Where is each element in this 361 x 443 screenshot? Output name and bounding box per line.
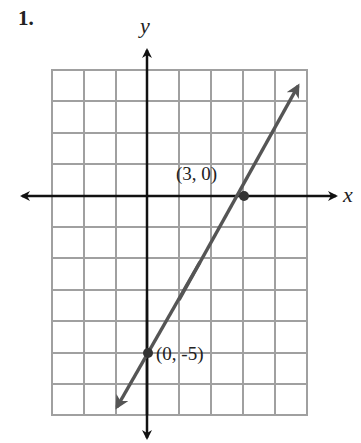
point-0-neg5 (143, 348, 153, 358)
y-axis-label: y (138, 13, 150, 38)
point-label-1: (3, 0) (176, 163, 217, 185)
graph: (3, 0) (0, -5) y x (0, 0, 361, 443)
point-label-2: (0, -5) (156, 343, 203, 365)
point-3-0 (239, 191, 249, 201)
x-axis-label: x (342, 182, 353, 207)
